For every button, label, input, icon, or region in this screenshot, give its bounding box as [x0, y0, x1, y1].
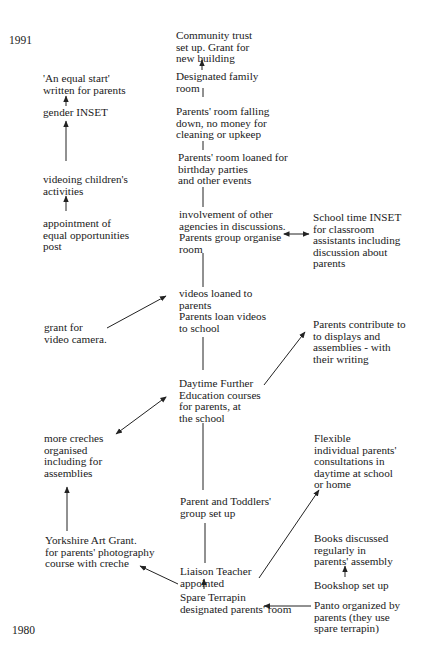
node-more-creches: more creches organised including for ass… [44, 433, 103, 479]
node-an-equal-start: 'An equal start' written for parents [43, 73, 126, 96]
node-liaison-teacher: Liaison Teacher appointed [180, 566, 251, 589]
node-videoing-activities: videoing children's activities [43, 174, 128, 197]
node-panto-organized: Panto organized by parents (they use spa… [314, 600, 400, 635]
node-gender-inset: gender INSET [43, 107, 108, 119]
node-designated-family-room: Designated family room [176, 71, 258, 94]
node-parent-and-toddlers: Parent and Toddlers' group set up [180, 496, 271, 519]
node-community-trust: Community trust set up. Grant for new bu… [176, 30, 252, 65]
node-parents-room-loaned: Parents' room loaned for birthday partie… [178, 152, 288, 187]
arrow-grant-to-videos [107, 296, 166, 328]
node-bookshop-set-up: Bookshop set up [314, 580, 389, 592]
node-other-agencies-involvement: involvement of other agencies in discuss… [179, 209, 286, 255]
arrow-daytime-fe-to-contribute [264, 332, 305, 385]
node-equal-opportunities-post: appointment of equal opportunities post [43, 218, 129, 253]
year-label-1980: 1980 [12, 624, 35, 636]
parent-involvement-timeline-diagram: 1991 1980 Community trust set up. Grant … [0, 0, 434, 654]
node-videos-loaned: videos loaned to parents Parents loan vi… [179, 288, 266, 334]
node-flexible-consultations: Flexible individual parents' consultatio… [314, 433, 397, 491]
year-label-1991: 1991 [9, 34, 32, 46]
node-yorkshire-art-grant: Yorkshire Art Grant. for parents' photog… [45, 535, 155, 570]
node-grant-video-camera: grant for video camera. [44, 322, 107, 345]
node-parents-contribute: Parents contribute to to displays and as… [313, 319, 406, 365]
node-school-time-inset: School time INSET for classroom assistan… [313, 212, 401, 270]
node-books-discussed: Books discussed regularly in parents' as… [314, 533, 393, 568]
node-spare-terrapin: Spare Terrapin designated parents' room [180, 592, 291, 615]
node-parents-room-falling-down: Parents' room falling down, no money for… [176, 106, 269, 141]
node-daytime-further-education: Daytime Further Education courses for pa… [179, 378, 261, 424]
double-arrow-daytime-fe-to-creches [116, 397, 166, 434]
